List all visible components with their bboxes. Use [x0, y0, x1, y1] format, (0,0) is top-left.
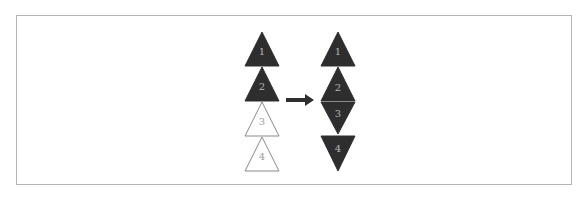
- right-triangle-1: 1: [321, 32, 355, 66]
- left-triangle-1: 1: [245, 32, 279, 66]
- right-triangle-3: 3: [321, 102, 355, 134]
- left-stack: 1 2 3 4: [245, 32, 279, 171]
- left-triangle-4-label: 4: [259, 151, 265, 162]
- right-triangle-4: 4: [321, 136, 355, 171]
- left-triangle-4: 4: [245, 137, 279, 171]
- right-triangle-4-label: 4: [335, 143, 341, 154]
- left-triangle-2: 2: [245, 67, 279, 101]
- right-arrow-icon: [286, 94, 314, 106]
- right-triangle-1-label: 1: [335, 46, 341, 57]
- triangle-flip-diagram: 1 2 3 4 1 2 3: [0, 0, 584, 197]
- left-triangle-2-label: 2: [259, 81, 265, 92]
- left-triangle-3: 3: [245, 102, 279, 136]
- right-triangle-3-label: 3: [335, 108, 341, 119]
- right-stack: 1 2 3 4: [320, 32, 356, 171]
- right-triangle-2-label: 2: [335, 82, 341, 93]
- left-triangle-1-label: 1: [259, 46, 265, 57]
- left-triangle-3-label: 3: [259, 116, 265, 127]
- right-triangle-2: 2: [321, 67, 355, 101]
